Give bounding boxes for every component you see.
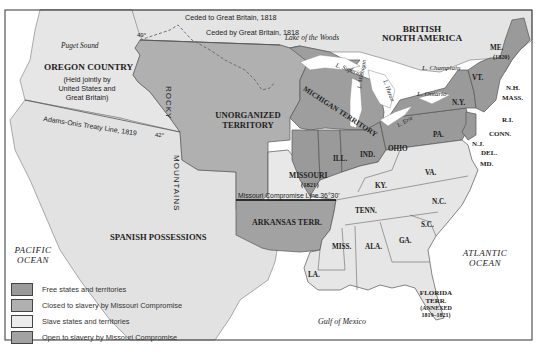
ky-label: KY.: [375, 183, 387, 190]
puget-sound-label: Puget Sound: [61, 42, 99, 49]
nh-label: N.H.: [506, 85, 520, 92]
lat-42-label: 42°: [155, 132, 164, 138]
map-legend: Free states and territories Closed to sl…: [11, 281, 182, 345]
la-label: LA.: [308, 272, 320, 279]
gulf-of-mexico-label: Gulf of Mexico: [318, 318, 366, 326]
unorganized-territory-label: UNORGANIZED TERRITORY: [212, 110, 284, 131]
missouri-label: MISSOURI: [289, 172, 327, 180]
tenn-label: TENN.: [355, 208, 377, 215]
lat-49-label: 49°: [137, 32, 146, 38]
pacific-ocean-label: PACIFIC OCEAN: [11, 245, 55, 266]
oregon-country-label: OREGON COUNTRY: [44, 63, 133, 72]
ala-label: ALA.: [365, 244, 382, 251]
mass-label: MASS.: [502, 95, 523, 102]
mountains-label: MOUNTAINS: [172, 155, 180, 211]
legend-label: Open to slavery by Missouri Compromise: [42, 333, 177, 342]
legend-swatch-open: [11, 331, 33, 344]
legend-item-open: Open to slavery by Missouri Compromise: [11, 329, 182, 345]
legend-swatch-slave: [11, 315, 33, 328]
va-label: VA.: [425, 170, 436, 177]
legend-label: Closed to slavery by Missouri Compromise: [42, 301, 182, 310]
rocky-label: ROCKY: [164, 86, 172, 119]
vt-label: VT.: [472, 75, 483, 82]
missouri-year: (1821): [301, 182, 319, 189]
nc-label: N.C.: [432, 199, 446, 206]
legend-label: Free states and territories: [42, 285, 126, 294]
legend-item-closed: Closed to slavery by Missouri Compromise: [11, 297, 182, 313]
conn-label: CONN.: [489, 131, 511, 138]
lake-ontario-label: L. Ontario: [417, 91, 447, 98]
legend-item-free: Free states and territories: [11, 281, 182, 297]
ind-label: IND.: [360, 152, 375, 159]
lake-of-woods-label: Lake of the Woods: [285, 34, 339, 41]
nj-label: N.J.: [472, 141, 484, 148]
miss-label: MISS.: [332, 244, 351, 251]
lake-champlain-label: L. Champlain: [422, 65, 461, 72]
florida-territory-label: FLORIDA TERR. (ANNEXED 1819–1821): [416, 289, 456, 319]
ohio-label: OHIO: [388, 146, 408, 153]
atlantic-ocean-label: ATLANTIC OCEAN: [459, 248, 511, 269]
del-label: DEL.: [481, 150, 497, 157]
maine-year: (1820): [493, 54, 510, 60]
legend-swatch-free: [11, 283, 33, 296]
pa-label: PA.: [433, 132, 444, 139]
oregon-note: (Held jointly by United States and Great…: [52, 75, 122, 102]
ga-label: GA.: [399, 238, 412, 245]
compromise-line-label: Missouri Compromise Line 36°30': [238, 193, 339, 200]
legend-label: Slave states and territories: [42, 317, 130, 326]
ri-label: R.I.: [502, 117, 513, 124]
british-north-america-label: BRITISH NORTH AMERICA: [372, 25, 472, 43]
maine-label: ME.: [490, 45, 503, 52]
ill-label: ILL.: [333, 156, 347, 163]
md-label: MD.: [480, 161, 493, 168]
ceded-to-label: Ceded to Great Britain, 1818: [185, 14, 277, 21]
ny-label: N.Y.: [452, 100, 465, 107]
spanish-possessions-label: SPANISH POSSESSIONS: [110, 233, 207, 242]
sc-label: S.C.: [421, 222, 434, 229]
legend-item-slave: Slave states and territories: [11, 313, 182, 329]
arkansas-territory-label: ARKANSAS TERR.: [252, 219, 322, 227]
legend-swatch-closed: [11, 299, 33, 312]
